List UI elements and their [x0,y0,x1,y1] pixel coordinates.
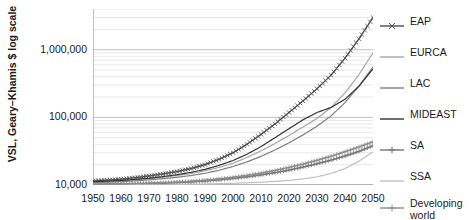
legend-item-sa[interactable]: SA [379,140,424,154]
legend-item-lac[interactable]: LAC [379,78,430,92]
x-axis-tick-label: 2010 [249,192,272,204]
legend-item-eap[interactable]: EAP [379,16,431,30]
legend-swatch-icon [379,111,405,123]
chart-svg [93,9,373,185]
x-axis-tick-label: 2030 [305,192,328,204]
legend-item-ssa[interactable]: SSA [379,171,431,185]
chart-legend: EAPEURCALACMIDEASTSASSADeveloping world [379,0,469,220]
legend-item-developing-world[interactable]: Developing world [379,198,463,220]
legend-swatch-icon [379,200,405,212]
legend-item-eurca[interactable]: EURCA [379,47,447,61]
y-axis-tick-label: 1,000,000 [40,43,87,55]
legend-swatch-icon [379,49,405,61]
legend-item-mideast[interactable]: MIDEAST [379,109,457,123]
legend-swatch-icon [379,18,405,30]
legend-label: Developing world [410,198,463,220]
y-axis-tick-label: 100,000 [49,110,87,122]
x-axis-tick-label: 1980 [165,192,188,204]
x-axis-tick-label: 1960 [109,192,132,204]
legend-swatch-icon [379,80,405,92]
data-series-group [93,15,373,185]
legend-swatch-icon [379,142,405,154]
x-axis-tick-label: 2000 [221,192,244,204]
legend-swatch-icon [379,173,405,185]
x-axis-tick-label: 1990 [193,192,216,204]
legend-label: SA [410,140,424,152]
legend-label: LAC [410,78,430,90]
legend-label: MIDEAST [410,109,457,121]
x-axis-tick-label: 2020 [277,192,300,204]
x-axis-tick-label: 1970 [137,192,160,204]
series-lac [93,67,373,183]
x-axis-tick-label: 1950 [81,192,104,204]
legend-label: EAP [410,16,431,28]
y-axis-title: VSL, Geary–Khamis $ log scale [6,0,26,174]
legend-label: EURCA [410,47,447,59]
chart-container: VSL, Geary–Khamis $ log scale 10,000100,… [0,0,469,220]
x-axis-tick-label: 2040 [333,192,356,204]
legend-label: SSA [410,171,431,183]
plot-area [93,9,373,185]
y-axis-tick-label: 10,000 [55,178,87,190]
